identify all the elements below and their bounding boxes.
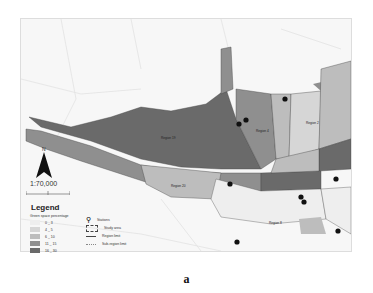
legend-class: 11 _ 15: [30, 241, 56, 246]
choropleth-map: Region 19 Region 20 Region 4 Region 2 Re…: [21, 19, 351, 251]
region-limit-icon: [86, 236, 96, 237]
map-pin-icon: ⚲: [86, 216, 91, 224]
legend-class: 16 _ 30: [30, 248, 57, 253]
svg-text:Region 8: Region 8: [269, 221, 282, 225]
study-area-icon: [86, 225, 98, 232]
legend-class: 0 _ 3: [30, 220, 53, 225]
map-scale: 1:70,000: [30, 180, 57, 187]
svg-text:Region 2: Region 2: [306, 121, 319, 125]
legend-class: 6 _ 10: [30, 234, 55, 239]
legend-subtitle: Green space percentage: [30, 214, 69, 218]
scale-bar: [26, 190, 70, 196]
legend-class: 4 _ 5: [30, 227, 53, 232]
symbol-legend: ⚲Stations Study area Region limit Sub-re…: [86, 216, 126, 248]
north-arrow-icon: [34, 148, 54, 182]
svg-text:Region 19: Region 19: [161, 136, 176, 140]
svg-text:Region 20: Region 20: [171, 184, 186, 188]
sub-region-limit-icon: [86, 244, 96, 245]
legend-title: Legend: [31, 203, 59, 212]
map-frame: Region 19 Region 20 Region 4 Region 2 Re…: [20, 18, 352, 252]
figure-caption: a: [0, 272, 373, 287]
svg-text:Region 4: Region 4: [256, 129, 269, 133]
